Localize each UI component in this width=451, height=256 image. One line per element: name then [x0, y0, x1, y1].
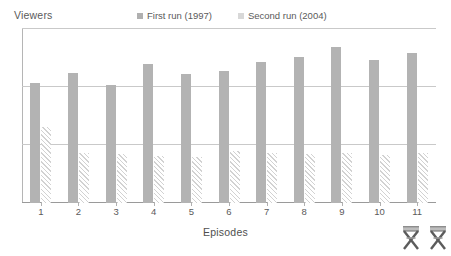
bar-group	[407, 28, 428, 203]
legend-label-second-run: Second run (2004)	[248, 10, 327, 21]
x-axis-title: Episodes	[0, 226, 451, 238]
bar-group	[143, 28, 164, 203]
bar-chart: Viewers First run (1997) Second run (200…	[0, 0, 451, 256]
y-axis-title: Viewers	[14, 9, 53, 21]
bar-first-run	[256, 62, 266, 203]
bar-second-run	[380, 155, 390, 203]
bar-second-run	[154, 156, 164, 203]
legend-swatch-first-run	[137, 13, 143, 19]
bar-second-run	[117, 154, 127, 203]
x-tick-label: 6	[226, 206, 231, 217]
director-chair-icon-2	[426, 224, 450, 250]
x-tick-label: 11	[412, 206, 422, 217]
bar-first-run	[219, 71, 229, 203]
bar-first-run	[143, 64, 153, 203]
bar-group	[68, 28, 89, 203]
director-chair-icon-1	[399, 224, 423, 250]
bar-first-run	[30, 83, 40, 203]
bar-second-run	[41, 127, 51, 203]
bar-first-run	[407, 53, 417, 203]
bar-first-run	[331, 47, 341, 203]
bar-first-run	[294, 57, 304, 203]
bar-group	[181, 28, 202, 203]
bar-first-run	[181, 74, 191, 203]
bar-group	[331, 28, 352, 203]
legend-label-first-run: First run (1997)	[147, 10, 212, 21]
legend-swatch-second-run	[238, 13, 244, 19]
bar-group	[256, 28, 277, 203]
bar-first-run	[68, 73, 78, 203]
bar-group	[219, 28, 240, 203]
x-axis-tick-labels: 1234567891011	[22, 206, 436, 222]
bar-second-run	[267, 153, 277, 203]
bar-second-run	[342, 153, 352, 203]
x-tick-label: 8	[302, 206, 307, 217]
legend-item-second-run: Second run (2004)	[238, 10, 327, 21]
x-tick-label: 4	[151, 206, 156, 217]
bar-series-layer	[22, 28, 436, 203]
plot-area	[22, 28, 436, 203]
bar-first-run	[106, 85, 116, 203]
chart-legend: First run (1997) Second run (2004)	[137, 10, 327, 21]
x-tick-label: 7	[264, 206, 269, 217]
bar-group	[106, 28, 127, 203]
bar-group	[294, 28, 315, 203]
bar-second-run	[418, 153, 428, 203]
bar-group	[369, 28, 390, 203]
x-tick-label: 3	[113, 206, 118, 217]
x-tick-label: 1	[38, 206, 43, 217]
x-tick-label: 5	[189, 206, 194, 217]
bar-group	[30, 28, 51, 203]
director-chair-icon-group	[399, 224, 450, 250]
bar-second-run	[230, 151, 240, 203]
x-tick-label: 2	[76, 206, 81, 217]
bar-second-run	[305, 154, 315, 203]
x-tick-label: 10	[374, 206, 385, 217]
legend-item-first-run: First run (1997)	[137, 10, 212, 21]
bar-first-run	[369, 60, 379, 203]
bar-second-run	[79, 153, 89, 203]
x-tick-label: 9	[339, 206, 344, 217]
bar-second-run	[192, 157, 202, 203]
